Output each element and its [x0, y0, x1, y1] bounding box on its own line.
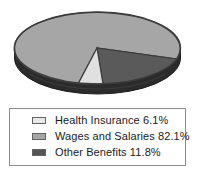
chart-legend: Health Insurance 6.1% Wages and Salaries…	[9, 108, 186, 166]
legend-item-health-insurance: Health Insurance 6.1%	[10, 112, 185, 128]
legend-label-health-insurance: Health Insurance 6.1%	[55, 115, 168, 126]
legend-swatch-health-insurance	[32, 117, 46, 124]
pie-chart-area	[0, 0, 197, 104]
legend-label-wages-and-salaries: Wages and Salaries 82.1%	[55, 131, 190, 142]
legend-item-wages-and-salaries: Wages and Salaries 82.1%	[10, 128, 185, 144]
legend-swatch-wages-and-salaries	[32, 133, 46, 140]
legend-label-other-benefits: Other Benefits 11.8%	[55, 147, 161, 158]
pie-chart-svg	[0, 0, 197, 104]
legend-swatch-other-benefits	[32, 149, 46, 156]
legend-item-other-benefits: Other Benefits 11.8%	[10, 144, 185, 160]
pie-chart-figure: Health Insurance 6.1% Wages and Salaries…	[0, 0, 197, 174]
